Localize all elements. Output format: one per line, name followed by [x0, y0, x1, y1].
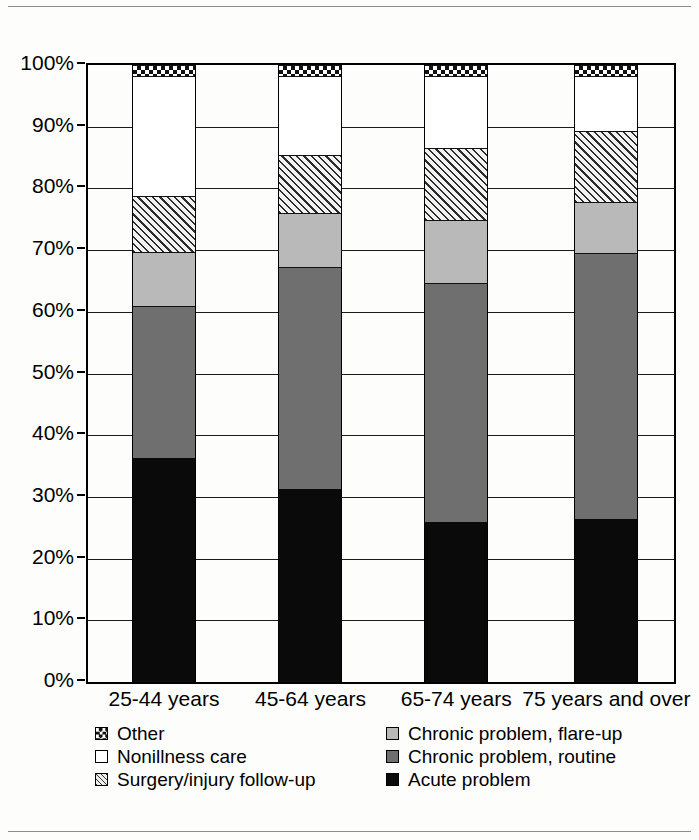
bar-segment-surgery-injury [575, 131, 637, 202]
y-axis-tick-label: 50% [8, 361, 74, 382]
y-axis-tick-label: 80% [8, 175, 74, 196]
y-axis-tick-mark [77, 124, 85, 126]
y-axis-tick-mark [77, 679, 85, 681]
bar-segment-acute [133, 458, 195, 682]
plot-area: 100%90%80%70%60%50%40%30%20%10%0% 25-44 … [0, 0, 699, 700]
bar-segment-other [575, 65, 637, 75]
black-swatch [386, 773, 399, 786]
legend-item-label: Chronic problem, flare-up [408, 724, 622, 743]
y-axis-tick-mark [77, 247, 85, 249]
y-axis-tick-label: 60% [8, 299, 74, 320]
bar-segment-acute [425, 522, 487, 682]
y-axis-tick-label: 100% [8, 52, 74, 73]
y-axis-tick-label: 20% [8, 546, 74, 567]
legend-item-label: Surgery/injury follow-up [117, 770, 316, 789]
legend-column-right: Chronic problem, flare-upChronic problem… [386, 722, 622, 791]
legend-item: Acute problem [386, 768, 622, 791]
y-axis-tick-label: 10% [8, 607, 74, 628]
bar-segment-nonillness-care [279, 76, 341, 155]
dark-gray-swatch [386, 750, 399, 763]
bar-segment-chronic-flare-up [575, 202, 637, 253]
y-axis-tick-label: 0% [8, 669, 74, 690]
bar-segment-chronic-routine [133, 306, 195, 458]
bar-segment-chronic-flare-up [425, 220, 487, 283]
chart-legend: OtherNonillness careSurgery/injury follo… [0, 722, 699, 812]
bar-segment-surgery-injury [425, 148, 487, 220]
chart-figure: 100%90%80%70%60%50%40%30%20%10%0% 25-44 … [0, 0, 699, 840]
bar-segment-acute [279, 489, 341, 682]
legend-item: Other [95, 722, 316, 745]
bar-segment-chronic-routine [279, 267, 341, 489]
bar [424, 65, 488, 682]
bar [132, 65, 196, 682]
plot-frame [86, 63, 676, 684]
bar [278, 65, 342, 682]
y-axis-tick-mark [77, 309, 85, 311]
legend-item: Nonillness care [95, 745, 316, 768]
y-axis-tick-mark [77, 617, 85, 619]
legend-item-label: Chronic problem, routine [408, 747, 616, 766]
legend-column-left: OtherNonillness careSurgery/injury follo… [95, 722, 316, 791]
bar-segment-chronic-flare-up [133, 252, 195, 306]
bar-segment-other [279, 65, 341, 75]
bar-segment-chronic-routine [575, 253, 637, 519]
bar-segment-nonillness-care [425, 76, 487, 149]
y-axis-tick-mark [77, 556, 85, 558]
bar [574, 65, 638, 682]
y-axis-tick-mark [77, 185, 85, 187]
bar-segment-acute [575, 519, 637, 682]
white-swatch [95, 750, 108, 763]
y-axis-tick-mark [77, 62, 85, 64]
bar-segment-other [425, 65, 487, 75]
legend-item: Chronic problem, flare-up [386, 722, 622, 745]
y-axis-tick-label: 90% [8, 114, 74, 135]
legend-item: Chronic problem, routine [386, 745, 622, 768]
bar-segment-nonillness-care [133, 76, 195, 196]
bar-segment-nonillness-care [575, 76, 637, 132]
y-axis-tick-label: 70% [8, 237, 74, 258]
legend-item-label: Other [117, 724, 165, 743]
y-axis-tick-mark [77, 494, 85, 496]
bar-segment-surgery-injury [279, 155, 341, 214]
legend-item: Surgery/injury follow-up [95, 768, 316, 791]
y-axis-tick-mark [77, 371, 85, 373]
y-axis-tick-label: 40% [8, 422, 74, 443]
x-axis-category-label: 75 years and over [406, 688, 699, 709]
bar-segment-surgery-injury [133, 196, 195, 252]
legend-item-label: Nonillness care [117, 747, 247, 766]
bar-segment-chronic-routine [425, 283, 487, 522]
bar-segment-chronic-flare-up [279, 213, 341, 267]
bar-segment-other [133, 65, 195, 76]
y-axis-tick-mark [77, 432, 85, 434]
light-gray-swatch [386, 727, 399, 740]
y-axis-tick-label: 30% [8, 484, 74, 505]
legend-item-label: Acute problem [408, 770, 531, 789]
page-rule-bottom [8, 831, 691, 832]
checkerboard-swatch [95, 727, 108, 740]
hatch-swatch [95, 773, 108, 786]
